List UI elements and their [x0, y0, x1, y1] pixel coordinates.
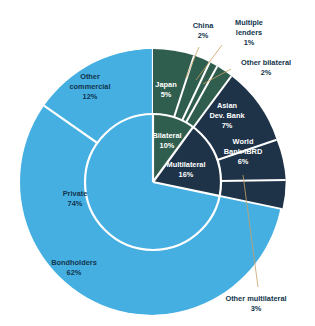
pie-chart-container: Other commercial 12% Bondholders 62% Pri… [0, 0, 315, 326]
svg-text:Asian: Asian [217, 101, 238, 110]
svg-text:Other bilateral: Other bilateral [241, 58, 291, 67]
svg-text:commercial: commercial [69, 82, 110, 91]
svg-text:lenders: lenders [236, 28, 262, 37]
svg-text:Japan: Japan [155, 80, 177, 89]
svg-text:Other: Other [80, 72, 100, 81]
svg-text:6%: 6% [238, 157, 249, 166]
svg-text:Dev. Bank: Dev. Bank [209, 111, 245, 120]
svg-text:Bilateral: Bilateral [152, 131, 181, 140]
svg-text:Multiple: Multiple [235, 18, 263, 27]
svg-text:Bondholders: Bondholders [51, 258, 97, 267]
svg-text:62%: 62% [67, 268, 82, 277]
svg-text:7%: 7% [222, 121, 233, 130]
svg-text:2%: 2% [198, 31, 209, 40]
svg-text:12%: 12% [83, 92, 98, 101]
nested-pie-chart: Other commercial 12% Bondholders 62% Pri… [0, 0, 315, 326]
svg-text:Bank-IBRD: Bank-IBRD [224, 147, 263, 156]
svg-text:World: World [233, 137, 254, 146]
svg-text:Private: Private [63, 189, 88, 198]
svg-text:1%: 1% [244, 38, 255, 47]
label-other-multilateral-callout: Other multilateral 3% [225, 294, 286, 313]
label-other-bilateral-callout: Other bilateral 2% [241, 58, 291, 77]
label-multiple-lenders-callout: Multiple lenders 1% [235, 18, 263, 47]
svg-text:74%: 74% [68, 199, 83, 208]
svg-text:Other multilateral: Other multilateral [225, 294, 286, 303]
svg-text:5%: 5% [161, 90, 172, 99]
svg-text:3%: 3% [251, 304, 262, 313]
svg-text:10%: 10% [160, 141, 175, 150]
svg-text:2%: 2% [261, 68, 272, 77]
svg-text:Multilateral: Multilateral [166, 160, 205, 169]
label-china-callout: China 2% [193, 21, 214, 40]
svg-text:16%: 16% [179, 170, 194, 179]
svg-text:China: China [193, 21, 214, 30]
